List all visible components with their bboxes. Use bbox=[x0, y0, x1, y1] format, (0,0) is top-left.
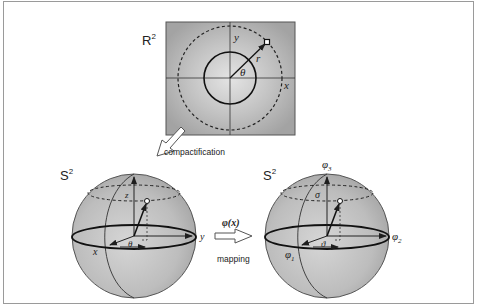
plane-y-label: y bbox=[233, 31, 239, 43]
sphere-left-z-label: z bbox=[124, 190, 129, 200]
plane-x-label: x bbox=[283, 79, 289, 91]
plane-point bbox=[265, 40, 270, 45]
sphere-left-y-label: y bbox=[199, 231, 205, 242]
compactification-label: compactification bbox=[164, 147, 225, 157]
plane-theta-label: θ bbox=[240, 66, 246, 78]
plane-square bbox=[166, 22, 295, 135]
sphere-left-x-label: x bbox=[92, 246, 98, 257]
mapping-label: mapping bbox=[217, 254, 250, 264]
sphere-left-theta-label: θ bbox=[128, 239, 133, 249]
sphere-right-point bbox=[338, 199, 343, 204]
sphere-right-angle-label: ϑ bbox=[321, 239, 326, 249]
compactification-diagram: R2 y r θ x compactification S2 bbox=[0, 0, 478, 305]
mapping-function-label: φ(x) bbox=[222, 217, 240, 229]
plane-r-label: r bbox=[256, 52, 261, 64]
sphere-left-point bbox=[145, 199, 150, 204]
